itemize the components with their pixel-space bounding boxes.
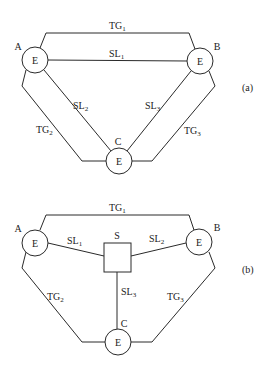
node-c-label: C [121, 318, 128, 329]
node-b-inner: E [196, 237, 202, 248]
link-tg1 [40, 215, 194, 230]
node-a-label: A [14, 223, 22, 234]
link-sl1 [48, 60, 187, 61]
label-tg3: TG3 [167, 291, 184, 304]
node-a-label: A [14, 41, 22, 52]
label-sl2: SL2 [73, 100, 89, 113]
node-a: E A [14, 41, 48, 73]
label-sl1: SL1 [109, 48, 125, 61]
node-a: E A [14, 223, 48, 256]
label-tg3: TG3 [184, 125, 201, 138]
label-tg1: TG1 [109, 202, 126, 215]
node-b-label: B [214, 222, 221, 233]
link-tg2 [22, 70, 106, 161]
link-tg1 [40, 33, 195, 49]
node-c-label: C [115, 136, 122, 147]
node-b: E B [187, 41, 221, 74]
caption-a: (a) [242, 82, 253, 94]
label-sl3: SL3 [121, 286, 137, 299]
label-sl2: SL2 [149, 233, 165, 246]
network-diagrams: E A E B E C TG1 SL1 SL2 SL3 TG2 TG3 (a) [0, 0, 272, 368]
node-a-inner: E [32, 55, 38, 66]
link-tg3 [132, 71, 215, 161]
link-sl2 [131, 243, 186, 256]
node-c: E C [105, 318, 131, 355]
label-sl3: SL3 [145, 100, 161, 113]
node-b: E B [186, 222, 221, 255]
node-a-inner: E [32, 238, 38, 249]
node-b-inner: E [197, 56, 203, 67]
diagram-b: S E A E B E C TG1 SL1 SL2 SL3 TG2 TG3 (b… [14, 202, 253, 355]
node-c-inner: E [116, 156, 122, 167]
label-tg2: TG2 [36, 124, 53, 137]
switch-s: S [104, 230, 131, 272]
node-c-inner: E [115, 337, 121, 348]
switch-s-label: S [114, 230, 120, 241]
node-c: E C [106, 136, 132, 174]
node-b-label: B [214, 41, 221, 52]
label-sl1: SL1 [67, 235, 83, 248]
diagram-a: E A E B E C TG1 SL1 SL2 SL3 TG2 TG3 (a) [14, 20, 253, 174]
label-tg1: TG1 [109, 20, 126, 33]
caption-b: (b) [242, 264, 254, 276]
